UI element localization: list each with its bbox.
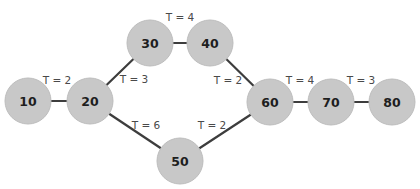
edge-label-20-30: T = 3 (119, 73, 149, 85)
edge-label-10-20: T = 2 (42, 74, 72, 86)
edge-label-70-80: T = 3 (346, 74, 376, 86)
node-label: 50 (171, 154, 189, 169)
edge-label-50-60: T = 2 (197, 119, 227, 131)
node-20: 20 (67, 78, 113, 124)
edge-label-30-40: T = 4 (165, 11, 195, 23)
node-40: 40 (187, 20, 233, 66)
node-label: 20 (81, 94, 99, 109)
edge-label-20-50: T = 6 (131, 119, 161, 131)
network-diagram: 1020304050607080 T = 2T = 3T = 4T = 2T =… (0, 0, 420, 189)
node-label: 40 (201, 36, 219, 51)
node-50: 50 (157, 138, 203, 184)
node-30: 30 (127, 20, 173, 66)
edge-label-60-70: T = 4 (285, 74, 315, 86)
node-label: 10 (19, 94, 37, 109)
edge-label-40-60: T = 2 (213, 74, 243, 86)
node-label: 60 (261, 95, 279, 110)
node-label: 70 (322, 95, 340, 110)
node-80: 80 (369, 79, 415, 125)
node-label: 80 (383, 95, 401, 110)
node-label: 30 (141, 36, 159, 51)
